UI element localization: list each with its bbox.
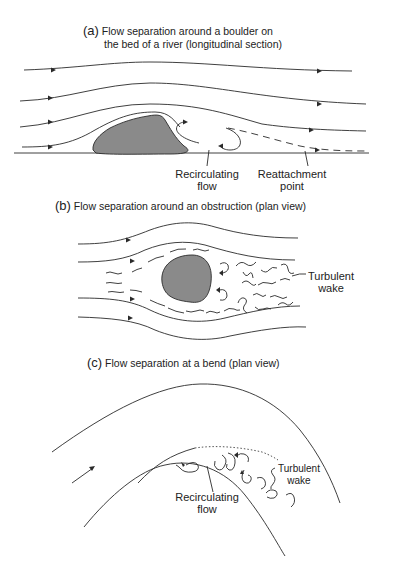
- wake-squiggle: [242, 281, 256, 285]
- arrow-icon: [315, 148, 320, 153]
- arrow-icon: [309, 128, 314, 133]
- c-eddy: [176, 465, 180, 468]
- panel-b-drawing: [78, 223, 306, 340]
- c-eddy: [214, 455, 226, 470]
- eddy-dash: [108, 292, 124, 293]
- c-flow-arrow-line: [72, 468, 93, 483]
- panel-a-drawing: [14, 62, 369, 166]
- arrow-icon: [317, 102, 322, 107]
- c-eddy: [271, 468, 275, 489]
- arrow-icon: [48, 120, 53, 125]
- wake-squiggle: [243, 272, 253, 278]
- streamline-2: [20, 83, 366, 104]
- eddy-dash: [130, 290, 142, 292]
- wake-squiggle: [238, 298, 247, 313]
- wake-squiggle: [236, 262, 256, 266]
- c-eddy: [242, 470, 251, 483]
- arrow-icon: [48, 96, 53, 101]
- b-streamline-1: [78, 223, 298, 244]
- b-streamline-4: [78, 317, 306, 339]
- wake-squiggle: [258, 282, 276, 285]
- wake-squiggle: [281, 264, 294, 273]
- c-eddy: [238, 454, 249, 462]
- arrow-icon: [216, 287, 220, 293]
- eddy-dash: [132, 268, 142, 272]
- wake-squiggle: [253, 294, 266, 297]
- panel-c-drawing: [52, 384, 340, 556]
- c-eddy: [266, 490, 277, 498]
- c-eddy: [286, 493, 295, 507]
- arrow-icon: [317, 69, 322, 74]
- b-recirc-swirl-lower: [219, 290, 227, 301]
- c-leader-recirculating: [207, 466, 213, 492]
- wake-squiggle: [280, 279, 290, 281]
- eddy-dash: [106, 272, 122, 274]
- leader-recirculating: [207, 150, 209, 166]
- arrow-icon: [130, 297, 135, 302]
- boulder-shape: [93, 115, 188, 154]
- arrow-icon: [126, 238, 131, 243]
- c-eddy: [257, 477, 266, 489]
- eddy-dash: [148, 256, 164, 262]
- streamline-1: [24, 62, 352, 71]
- arrow-icon: [218, 144, 223, 149]
- arrow-icon: [128, 316, 133, 321]
- obstruction-shape: [162, 255, 211, 302]
- streamline-3: [20, 104, 366, 131]
- c-outer-bank: [52, 384, 340, 503]
- eddy-dash: [186, 310, 204, 312]
- wake-squiggle: [255, 307, 271, 310]
- recirc-loop-upper: [176, 122, 199, 143]
- c-eddy: [226, 453, 235, 470]
- eddy-dash: [170, 249, 186, 252]
- leader-wake: [292, 274, 306, 276]
- wake-squiggle: [270, 296, 287, 299]
- wake-squiggle: [278, 302, 293, 305]
- eddy-dash: [150, 300, 165, 306]
- eddy-dash: [193, 249, 209, 251]
- c-inner-bank: [84, 463, 285, 556]
- eddy-dash: [224, 308, 240, 311]
- eddy-dash: [106, 283, 122, 284]
- c-separation-curve: [138, 448, 195, 483]
- eddy-dash: [206, 311, 220, 313]
- separation-dashed-line: [228, 128, 366, 151]
- arrow-icon: [183, 120, 188, 125]
- recirc-loop-lower: [221, 128, 240, 150]
- arrow-icon: [219, 270, 223, 276]
- diagram-canvas: [0, 0, 396, 575]
- arrow-icon: [130, 259, 135, 264]
- wake-squiggle: [261, 267, 277, 272]
- eddy-dash: [168, 308, 184, 313]
